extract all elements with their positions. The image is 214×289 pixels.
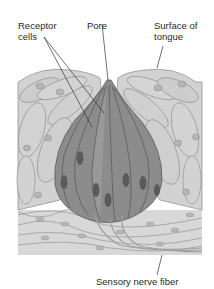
taste-bud-diagram [0,0,214,289]
label-pore: Pore [87,20,107,31]
label-surface-of-tongue: Surface of tongue [154,20,197,42]
label-receptor-cells: Receptor cells [18,20,57,42]
label-sensory-nerve-fiber: Sensory nerve fiber [96,276,178,287]
